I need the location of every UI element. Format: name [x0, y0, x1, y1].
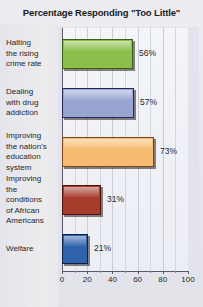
- category-label-line: Americans: [6, 216, 58, 227]
- x-axis-minor-tick: [125, 271, 126, 273]
- category-label-line: education: [6, 152, 58, 163]
- category-label-line: Improving: [6, 174, 58, 185]
- category-label-line: with drug: [6, 98, 58, 109]
- bar[interactable]: [62, 234, 88, 264]
- x-axis-tick-label: 60: [133, 275, 142, 284]
- x-axis-tick: [112, 271, 113, 274]
- bar-fill: [62, 185, 101, 215]
- bar-value-label: 56%: [139, 48, 156, 58]
- bar[interactable]: [62, 88, 134, 118]
- chart-container: Percentage Responding "Too Little" 56%57…: [0, 0, 203, 307]
- x-axis-tick: [62, 271, 63, 274]
- category-label-line: Welfare: [6, 244, 58, 255]
- x-axis-tick-label: 20: [83, 275, 92, 284]
- x-axis-tick-label: 80: [158, 275, 167, 284]
- category-label-line: Dealing: [6, 87, 58, 98]
- category-label-line: addiction: [6, 108, 58, 119]
- category-label-line: the rising: [6, 49, 58, 60]
- x-axis-minor-tick: [75, 271, 76, 273]
- bar-fill: [62, 234, 88, 264]
- bar[interactable]: [62, 39, 133, 69]
- category-label-line: system: [6, 163, 58, 174]
- x-axis-minor-tick: [150, 271, 151, 273]
- bar-fill: [62, 39, 133, 69]
- bar-fill: [62, 88, 134, 118]
- category-label-line: the: [6, 185, 58, 196]
- x-axis-tick: [87, 271, 88, 274]
- category-label-line: crime rate: [6, 59, 58, 70]
- category-label-line: the nation's: [6, 142, 58, 153]
- chart-title-bar: Percentage Responding "Too Little": [0, 0, 203, 24]
- bar-value-label: 73%: [160, 146, 177, 156]
- bar-fill: [62, 137, 154, 167]
- bar-highlight: [64, 41, 131, 51]
- category-label-line: Improving: [6, 131, 58, 142]
- x-axis-minor-tick: [100, 271, 101, 273]
- x-axis-tick: [163, 271, 164, 274]
- bar-highlight: [64, 90, 132, 100]
- bar-highlight: [64, 236, 86, 246]
- category-label: Welfare: [6, 244, 58, 255]
- bar-highlight: [64, 187, 99, 197]
- x-axis-tick: [188, 271, 189, 274]
- x-axis-tick-label: 0: [60, 275, 64, 284]
- x-axis-tick-label: 40: [108, 275, 117, 284]
- x-axis-minor-tick: [175, 271, 176, 273]
- bar[interactable]: [62, 137, 154, 167]
- x-axis-tick: [138, 271, 139, 274]
- category-label-line: Halting: [6, 38, 58, 49]
- category-label: Dealingwith drugaddiction: [6, 87, 58, 119]
- category-label-line: conditions: [6, 195, 58, 206]
- category-label-line: of African: [6, 206, 58, 217]
- category-label: Improvingthe nation'seducationsystem: [6, 131, 58, 173]
- x-axis-tick-label: 100: [181, 275, 194, 284]
- bar-value-label: 21%: [94, 243, 111, 253]
- bar[interactable]: [62, 185, 101, 215]
- bar-value-label: 31%: [107, 194, 124, 204]
- chart-title: Percentage Responding "Too Little": [23, 7, 180, 18]
- bar-highlight: [64, 139, 152, 149]
- category-label: Improvingtheconditionsof AfricanAmerican…: [6, 174, 58, 227]
- category-label: Haltingthe risingcrime rate: [6, 38, 58, 70]
- bar-value-label: 57%: [140, 97, 157, 107]
